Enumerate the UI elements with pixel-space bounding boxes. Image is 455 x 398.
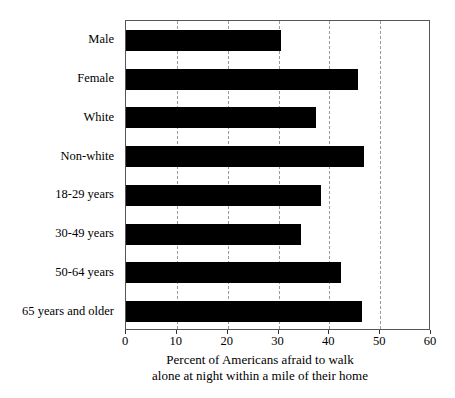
bar [126, 185, 321, 206]
category-label: 50-64 years [55, 266, 114, 278]
bar-chart: MaleFemaleWhiteNon-white18-29 years30-49… [0, 0, 455, 398]
bar [126, 69, 358, 90]
category-label: White [83, 111, 114, 123]
axis-tick-label: 50 [364, 334, 394, 348]
category-label: Non-white [61, 150, 114, 162]
axis-title-line-1: Percent of Americans afraid to walk [95, 352, 425, 368]
category-label: 30-49 years [55, 227, 114, 239]
bar [126, 146, 364, 167]
axis-title: Percent of Americans afraid to walk alon… [95, 352, 425, 384]
axis-tick-label: 40 [313, 334, 343, 348]
axis-tick-label: 10 [161, 334, 191, 348]
plot-area [125, 20, 430, 330]
bar [126, 30, 281, 51]
axis-tick-label: 0 [110, 334, 140, 348]
value-axis: 0102030405060 [125, 330, 430, 352]
bar [126, 107, 316, 128]
bar [126, 301, 362, 322]
axis-tick-label: 30 [263, 334, 293, 348]
category-label: 65 years and older [22, 305, 114, 317]
axis-tick-label: 60 [415, 334, 445, 348]
bar [126, 224, 301, 245]
axis-tick-label: 20 [212, 334, 242, 348]
bar [126, 262, 341, 283]
category-label: Male [88, 33, 114, 45]
category-label: Female [77, 72, 114, 84]
axis-title-line-2: alone at night within a mile of their ho… [95, 368, 425, 384]
bars-layer [126, 21, 429, 329]
category-label: 18-29 years [55, 188, 114, 200]
category-axis-labels: MaleFemaleWhiteNon-white18-29 years30-49… [0, 20, 120, 330]
